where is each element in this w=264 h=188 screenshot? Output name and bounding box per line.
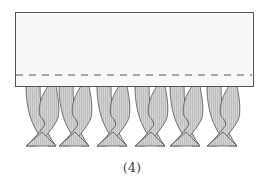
fringe-twists — [26, 86, 240, 146]
figure-caption: (4) — [0, 160, 264, 175]
